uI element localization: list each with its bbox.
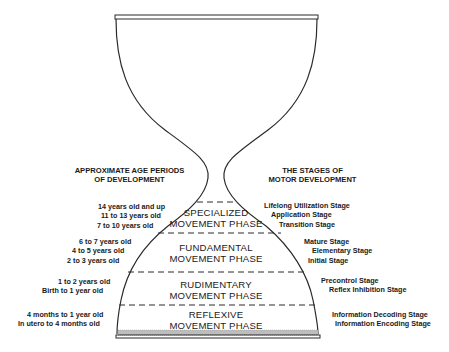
stages-rudimentary: Precontrol Stage Reflex Inhibition Stage bbox=[321, 276, 406, 295]
stages-reflexive: Information Decoding Stage Information E… bbox=[332, 310, 431, 329]
phase-specialized: SPECIALIZED MOVEMENT PHASE bbox=[166, 207, 266, 229]
ages-reflexive: 4 months to 1 year old In utero to 4 mon… bbox=[18, 310, 103, 329]
stages-specialized: Lifelong Utilization Stage Application S… bbox=[264, 201, 350, 229]
stages-fundamental: Mature Stage Elementary Stage Initial St… bbox=[304, 237, 372, 265]
ages-fundamental: 6 to 7 years old 4 to 5 years old 2 to 3… bbox=[78, 237, 131, 265]
right-header: THE STAGES OF MOTOR DEVELOPMENT bbox=[255, 166, 370, 185]
phase-reflexive: REFLEXIVE MOVEMENT PHASE bbox=[166, 309, 266, 331]
phase-rudimentary: RUDIMENTARY MOVEMENT PHASE bbox=[166, 279, 266, 301]
ages-specialized: 14 years old and up 11 to 13 years old 7… bbox=[98, 202, 165, 230]
ages-rudimentary: 1 to 2 years old Birth to 1 year old bbox=[42, 277, 110, 296]
left-header: APPROXIMATE AGE PERIODS OF DEVELOPMENT bbox=[62, 166, 197, 185]
phase-fundamental: FUNDAMENTAL MOVEMENT PHASE bbox=[166, 242, 266, 264]
